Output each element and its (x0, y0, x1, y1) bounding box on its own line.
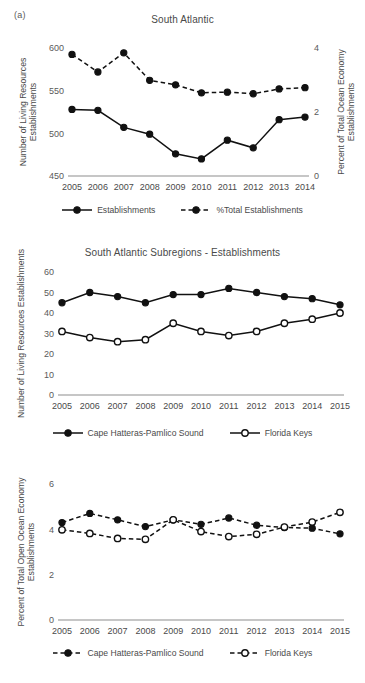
data-point (337, 531, 343, 537)
data-point (337, 310, 343, 316)
x-tick-label: 2013 (274, 401, 294, 411)
data-point (95, 69, 101, 75)
y-tick-label: 60 (44, 267, 54, 277)
data-point (253, 531, 259, 537)
x-tick-label: 2012 (247, 626, 267, 636)
data-point (337, 509, 343, 515)
legend-label: Establishments (97, 206, 155, 215)
data-point (170, 291, 176, 297)
data-point (281, 320, 287, 326)
data-point (309, 525, 315, 531)
legend-b: Cape Hatteras-Pamlico Sound Florida Keys (0, 428, 365, 438)
x-tick-label: 2009 (163, 401, 183, 411)
chart-panel-subregions-establishments: South Atlantic Subregions - Establishmen… (0, 240, 365, 458)
data-point (198, 521, 204, 527)
chart-panel-south-atlantic: (a) South Atlantic 450500550600024200520… (0, 0, 365, 232)
y-tick-label: 550 (49, 86, 64, 96)
chart-svg-b: 0102030405060200520062007200820092010201… (0, 240, 365, 425)
legend-swatch-solid-filled (62, 205, 92, 215)
y-tick-label: 30 (44, 329, 54, 339)
data-point (59, 527, 65, 533)
series-line-0 (72, 109, 305, 158)
y-tick-label: 2 (49, 570, 54, 580)
x-tick-label: 2010 (191, 401, 211, 411)
y2-tick-label: 0 (314, 171, 319, 181)
data-point (142, 524, 148, 530)
legend-c: Cape Hatteras-Pamlico Sound Florida Keys (0, 648, 365, 658)
data-point (226, 533, 232, 539)
legend-item-cape-hatteras-pamlico-sound[interactable]: Cape Hatteras-Pamlico Sound (53, 428, 204, 438)
data-point (170, 517, 176, 523)
data-point (59, 300, 65, 306)
y-axis-title: Number of Living Resources Establishment… (16, 249, 26, 418)
legend-label: Cape Hatteras-Pamlico Sound (88, 649, 204, 658)
data-point (115, 294, 121, 300)
data-point (224, 137, 230, 143)
x-tick-label: 2008 (140, 182, 160, 192)
series-line-1 (72, 53, 305, 94)
data-point (59, 519, 65, 525)
x-tick-label: 2014 (295, 182, 315, 192)
data-point (276, 117, 282, 123)
data-point (302, 85, 308, 91)
x-tick-label: 2009 (163, 626, 183, 636)
y-axis-title: Number of Living ResourcesEstablishments (18, 58, 38, 166)
x-tick-label: 2007 (108, 626, 128, 636)
x-tick-label: 2013 (274, 626, 294, 636)
x-tick-label: 2010 (191, 182, 211, 192)
data-point (250, 91, 256, 97)
data-point (95, 107, 101, 113)
x-tick-label: 2012 (243, 182, 263, 192)
y-tick-label: 500 (49, 129, 64, 139)
chart-panel-subregions-percent: 0246200520062007200820092010201120122013… (0, 462, 365, 683)
data-point (198, 156, 204, 162)
data-point (276, 86, 282, 92)
x-tick-label: 2010 (191, 626, 211, 636)
data-point (198, 528, 204, 534)
x-tick-label: 2006 (80, 401, 100, 411)
legend-item-cape-hatteras-pamlico-sound[interactable]: Cape Hatteras-Pamlico Sound (53, 648, 204, 658)
data-point (172, 151, 178, 157)
data-point (309, 296, 315, 302)
legend-swatch-dashed-filled (53, 648, 83, 658)
legend-item-florida-keys[interactable]: Florida Keys (230, 428, 313, 438)
plot-area-b: 0102030405060200520062007200820092010201… (0, 240, 365, 425)
x-tick-label: 2011 (218, 182, 237, 192)
legend-item-florida-keys[interactable]: Florida Keys (230, 648, 313, 658)
y-tick-label: 0 (49, 615, 54, 625)
y-tick-label: 40 (44, 308, 54, 318)
legend-item-pct-total-establishments[interactable]: %Total Establishments (181, 205, 302, 215)
x-tick-label: 2008 (135, 626, 155, 636)
legend-swatch-dashed-filled (181, 205, 211, 215)
data-point (198, 90, 204, 96)
data-point (142, 336, 148, 342)
data-point (226, 285, 232, 291)
y-tick-label: 10 (44, 370, 54, 380)
y2-tick-label: 4 (314, 43, 319, 53)
x-tick-label: 2014 (302, 401, 322, 411)
data-point (142, 300, 148, 306)
legend-label: Cape Hatteras-Pamlico Sound (88, 429, 204, 438)
data-point (147, 77, 153, 83)
legend-swatch-solid-filled (53, 428, 83, 438)
data-point (226, 332, 232, 338)
data-point (281, 294, 287, 300)
data-point (87, 289, 93, 295)
data-point (281, 524, 287, 530)
x-tick-label: 2007 (108, 401, 128, 411)
x-tick-label: 2005 (62, 182, 82, 192)
legend-item-establishments[interactable]: Establishments (62, 205, 155, 215)
data-point (69, 106, 75, 112)
x-tick-label: 2012 (247, 401, 267, 411)
plot-area-c: 0246200520062007200820092010201120122013… (0, 462, 365, 647)
data-point (114, 339, 120, 345)
data-point (172, 82, 178, 88)
y2-tick-label: 2 (314, 107, 319, 117)
data-point (337, 302, 343, 308)
data-point (198, 328, 204, 334)
data-point (121, 124, 127, 130)
data-point (250, 145, 256, 151)
x-tick-label: 2013 (269, 182, 289, 192)
data-point (115, 517, 121, 523)
legend-label: Florida Keys (265, 429, 313, 438)
